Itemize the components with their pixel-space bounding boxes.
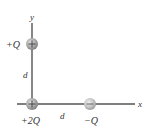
charge-right [84,98,96,110]
charge-right-label: −Q [84,115,99,126]
charge-origin [26,98,38,110]
y-axis-label: y [29,12,34,22]
charge-top [26,38,38,50]
x-axis-label: x [137,99,142,109]
horizontal-distance-label: d [60,111,65,121]
charge-top-label: +Q [6,39,21,50]
charge-origin-label: +2Q [21,115,41,126]
vertical-distance-label: d [23,70,28,80]
charge-diagram: y x d d +Q +2Q −Q [0,0,151,131]
